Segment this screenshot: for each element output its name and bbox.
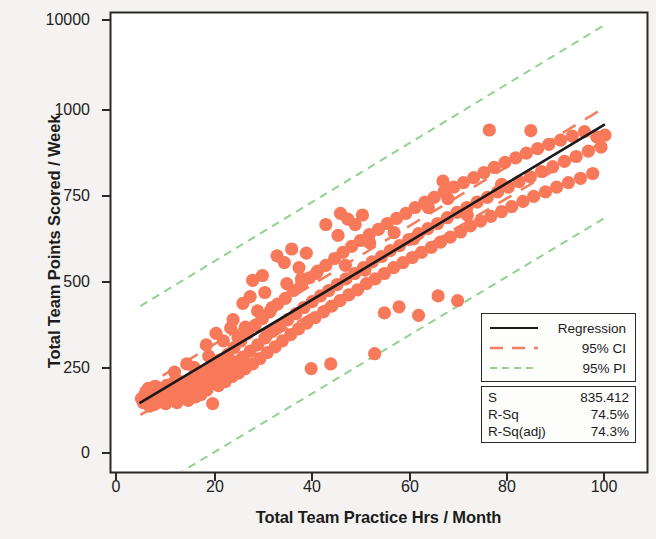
- legend-label-ci: 95% CI: [540, 341, 629, 356]
- legend-label-pi: 95% PI: [540, 361, 629, 376]
- scatter-point: [546, 160, 559, 173]
- scatter-point: [280, 277, 293, 290]
- stat-row-rsq-adj: R-Sq(adj) 74.3%: [488, 423, 629, 440]
- scatter-plot-figure: Total Team Points Scored / Week Total Te…: [0, 0, 656, 539]
- stat-key-rsq-adj: R-Sq(adj): [488, 424, 546, 439]
- scatter-point: [520, 147, 533, 160]
- scatter-point: [168, 365, 181, 378]
- scatter-point: [527, 190, 540, 203]
- legend-item-pi: 95% PI: [488, 358, 629, 378]
- scatter-point: [542, 138, 555, 151]
- stat-value-rsq: 74.5%: [591, 407, 629, 422]
- scatter-point: [258, 286, 271, 299]
- scatter-point: [239, 321, 252, 334]
- scatter-point: [305, 362, 318, 375]
- scatter-point: [339, 259, 352, 272]
- scatter-point: [319, 218, 332, 231]
- scatter-point: [392, 300, 405, 313]
- scatter-point: [562, 176, 575, 189]
- scatter-point: [378, 306, 391, 319]
- scatter-point: [217, 334, 230, 347]
- scatter-point: [558, 155, 571, 168]
- scatter-point: [554, 134, 567, 147]
- legend-swatch-ci-icon: [488, 342, 540, 354]
- legend-box: Regression 95% CI 95% PI: [481, 313, 636, 382]
- scatter-point: [309, 267, 322, 280]
- scatter-point: [582, 144, 595, 157]
- scatter-point: [535, 165, 548, 178]
- scatter-point: [451, 294, 464, 307]
- scatter-point: [531, 142, 544, 155]
- scatter-point: [570, 150, 583, 163]
- scatter-point: [388, 226, 401, 239]
- stat-key-s: S: [488, 390, 497, 405]
- scatter-point: [244, 290, 257, 303]
- scatter-point: [431, 289, 444, 302]
- scatter-point: [483, 123, 496, 136]
- stat-row-rsq: R-Sq 74.5%: [488, 406, 629, 423]
- scatter-point: [441, 192, 454, 205]
- stat-row-s: S 835.412: [488, 389, 629, 406]
- scatter-point: [412, 309, 425, 322]
- scatter-point: [266, 301, 279, 314]
- plot-area: [0, 0, 656, 539]
- scatter-point: [200, 338, 213, 351]
- scatter-point: [285, 242, 298, 255]
- legend-label-regression: Regression: [540, 321, 629, 336]
- scatter-point: [594, 140, 607, 153]
- stat-value-s: 835.412: [580, 390, 629, 405]
- scatter-point: [206, 397, 219, 410]
- scatter-point: [368, 347, 381, 360]
- stat-value-rsq-adj: 74.3%: [591, 424, 629, 439]
- scatter-point: [256, 269, 269, 282]
- scatter-point: [550, 181, 563, 194]
- scatter-point: [436, 174, 449, 187]
- scatter-point: [295, 272, 308, 285]
- scatter-point: [324, 357, 337, 370]
- scatter-point: [505, 200, 518, 213]
- scatter-point: [574, 172, 587, 185]
- scatter-point: [300, 246, 313, 259]
- stats-box: S 835.412 R-Sq 74.5% R-Sq(adj) 74.3%: [481, 386, 636, 443]
- legend-swatch-pi-icon: [488, 362, 540, 374]
- scatter-point: [524, 124, 537, 137]
- legend-swatch-regression-icon: [488, 322, 540, 334]
- scatter-point: [422, 201, 435, 214]
- scatter-point: [292, 261, 305, 274]
- scatter-point: [586, 167, 599, 180]
- scatter-point: [278, 256, 291, 269]
- legend-item-regression: Regression: [488, 318, 629, 338]
- scatter-point: [227, 313, 240, 326]
- scatter-point: [363, 236, 376, 249]
- stat-key-rsq: R-Sq: [488, 407, 519, 422]
- legend-item-ci: 95% CI: [488, 338, 629, 358]
- scatter-point: [598, 129, 611, 142]
- scatter-point: [251, 304, 264, 317]
- scatter-point: [539, 185, 552, 198]
- scatter-point: [356, 208, 369, 221]
- scatter-point: [331, 229, 344, 242]
